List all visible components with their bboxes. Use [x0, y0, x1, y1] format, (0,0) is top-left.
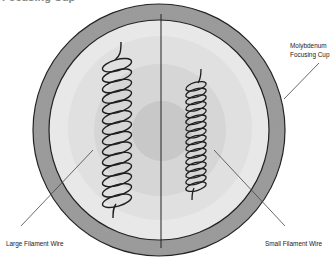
label-large-filament-wire: Large Filament Wire [6, 240, 64, 248]
label-focusing-cup-line2: Focusing Cup [290, 51, 329, 59]
cathode-diagram [0, 0, 334, 264]
leader-focusing-cup [284, 63, 319, 99]
label-small-filament-wire: Small Filament Wire [265, 240, 322, 248]
label-focusing-cup-line1: Molybdenum [290, 42, 327, 50]
cathode-face-shading [68, 36, 252, 220]
